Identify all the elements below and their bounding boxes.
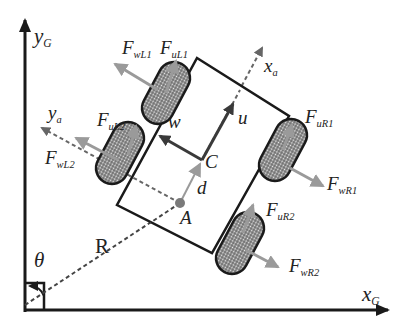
theta-arc-icon [30, 286, 44, 296]
label-force-wR2: FwR2 [289, 256, 319, 278]
label-velocity-w: w [168, 112, 181, 131]
label-x-body: xa [264, 56, 278, 78]
label-y-body: ya [48, 103, 62, 125]
label-force-uL1: FuL1 [160, 38, 188, 60]
label-theta: θ [34, 250, 44, 271]
label-force-uR2: FuR2 [266, 200, 294, 222]
label-offset-d: d [197, 178, 207, 197]
label-velocity-u: u [238, 108, 248, 127]
label-force-uR1: FuR1 [305, 107, 333, 129]
label-point-a: A [180, 208, 192, 227]
label-force-wL1: FwL1 [122, 38, 152, 60]
label-radius-r: R [95, 236, 109, 257]
label-center-c: C [205, 152, 218, 171]
label-force-uL2: FuL2 [97, 110, 125, 132]
label-y-global: yG [34, 26, 52, 50]
label-x-global: xG [362, 284, 380, 308]
label-force-wR1: FwR1 [327, 174, 357, 196]
force-wL1-arrow [115, 64, 158, 90]
label-force-wL2: FwL2 [45, 148, 75, 170]
force-wR1-arrow [290, 168, 323, 186]
